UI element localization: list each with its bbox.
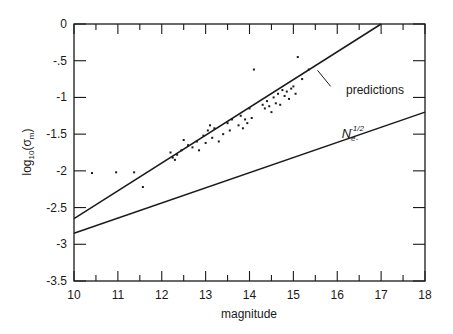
x-tick-label: 14: [243, 288, 257, 302]
data-point: [202, 135, 204, 137]
data-point: [288, 98, 290, 100]
data-point: [249, 107, 251, 109]
annotation-leader: [318, 70, 331, 86]
axis-ticks: [74, 24, 425, 281]
x-tick-label: 18: [418, 288, 432, 302]
y-tick-label: -2: [56, 164, 67, 178]
data-point: [133, 171, 135, 173]
data-point: [238, 124, 240, 126]
data-point: [281, 89, 283, 91]
svg-text:log10(σm): log10(σm): [20, 129, 36, 176]
data-point: [170, 152, 172, 154]
data-point: [279, 104, 281, 106]
data-point: [297, 56, 299, 58]
data-point: [213, 127, 215, 129]
x-tick-label: 16: [331, 288, 345, 302]
data-point: [284, 95, 286, 97]
data-point: [172, 157, 174, 159]
data-point: [176, 154, 178, 156]
x-tick-label: 17: [374, 288, 388, 302]
data-point: [262, 104, 264, 106]
y-tick-label: -3: [56, 237, 67, 251]
data-point: [211, 137, 213, 139]
line-predictions: [74, 24, 381, 219]
line-ne-1-2: [74, 112, 425, 233]
data-point: [292, 85, 294, 87]
data-point: [295, 93, 297, 95]
annotation-predictions-label: predictions: [346, 83, 404, 97]
data-point: [196, 140, 198, 142]
data-point: [268, 105, 270, 107]
data-point: [290, 88, 292, 90]
data-point: [273, 96, 275, 98]
data-point: [222, 133, 224, 135]
x-tick-label: 13: [199, 288, 213, 302]
axis-tick-labels: 1011121314151617180-.5-1-1.5-2-2.5-3-3.5: [46, 17, 432, 302]
x-tick-label: 11: [112, 288, 125, 302]
y-tick-label: -1: [56, 90, 67, 104]
data-point: [240, 115, 242, 117]
data-point: [142, 186, 144, 188]
data-point: [266, 100, 268, 102]
data-point: [264, 107, 266, 109]
data-point: [231, 118, 233, 120]
data-points: [91, 56, 310, 188]
data-point: [218, 140, 220, 142]
data-point: [187, 144, 189, 146]
data-point: [174, 159, 176, 161]
annotation-ne-label: Ne--1/2: [342, 124, 365, 143]
data-point: [227, 122, 229, 124]
data-point: [275, 102, 277, 104]
data-point: [270, 111, 272, 113]
data-point: [244, 118, 246, 120]
data-point: [277, 93, 279, 95]
x-tick-label: 12: [155, 288, 169, 302]
y-tick-label: -2.5: [46, 201, 67, 215]
data-point: [286, 91, 288, 93]
trend-lines: [74, 24, 425, 233]
data-point: [301, 78, 303, 80]
data-point: [209, 124, 211, 126]
y-tick-label: -.5: [53, 54, 67, 68]
x-axis-label: magnitude: [221, 307, 277, 321]
data-point: [229, 129, 231, 131]
data-point: [253, 69, 255, 71]
data-point: [115, 171, 117, 173]
data-point: [246, 122, 248, 124]
y-tick-label: -3.5: [46, 274, 67, 288]
data-point: [191, 146, 193, 148]
data-point: [205, 142, 207, 144]
y-tick-label: 0: [60, 17, 67, 31]
chart: 1011121314151617180-.5-1-1.5-2-2.5-3-3.5…: [0, 0, 453, 334]
annotations: predictionsNe--1/2: [318, 70, 405, 143]
data-point: [308, 69, 310, 71]
data-point: [183, 139, 185, 141]
x-tick-label: 10: [67, 288, 81, 302]
data-point: [91, 172, 93, 174]
data-point: [251, 117, 253, 119]
y-tick-label: -1.5: [46, 127, 67, 141]
data-point: [242, 127, 244, 129]
data-point: [207, 129, 209, 131]
y-axis-label: log10(σm): [20, 129, 36, 176]
x-tick-label: 15: [287, 288, 301, 302]
data-point: [198, 149, 200, 151]
plot-frame: [74, 24, 425, 281]
data-point: [180, 149, 182, 151]
